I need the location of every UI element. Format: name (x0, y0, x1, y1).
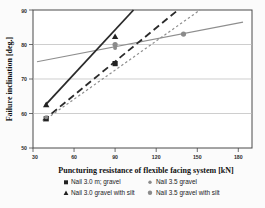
x-axis-title: Puncturing resistance of flexible facing… (58, 166, 234, 175)
legend-label-nail-3-5-gravel-with-silt: Nail 3.5 gravel with silt (156, 189, 220, 197)
x-tick-label: 180 (234, 154, 243, 160)
y-tick-label: 80 (21, 42, 27, 48)
legend-marker-small-circle (148, 181, 151, 184)
legend-label-nail-3-0-gravel-with-silt: Nail 3.0 gravel with silt (71, 189, 135, 197)
x-tick-label: 150 (193, 154, 202, 160)
legend-marker-square (64, 180, 68, 184)
y-tick-labels: 50 60 70 80 90 (21, 8, 27, 152)
data-point-square (113, 61, 118, 66)
figure-container: 50 60 70 80 90 30 60 90 120 150 180 Fail… (0, 0, 265, 208)
legend-label-nail-3-0-gravel: Nail 3.0 m; gravel (71, 178, 121, 186)
y-tick-label: 50 (21, 145, 27, 151)
legend-marker-triangle (64, 191, 69, 195)
data-point-circle (113, 42, 118, 47)
chart-svg: 50 60 70 80 90 30 60 90 120 150 180 Fail… (0, 0, 265, 208)
x-tick-label: 60 (71, 154, 77, 160)
x-tick-labels: 30 60 90 120 150 180 (32, 154, 243, 160)
y-ticks (29, 10, 33, 148)
legend-marker-circle (148, 191, 152, 195)
chart-legend: Nail 3.0 m; gravel Nail 3.5 gravel Nail … (64, 178, 220, 196)
y-axis-title: Failure inclination [deg.] (5, 36, 14, 121)
y-tick-label: 70 (21, 76, 27, 82)
x-ticks (33, 148, 238, 152)
data-point-small-circle (44, 115, 48, 119)
legend-label-nail-3-5-gravel: Nail 3.5 gravel (156, 178, 197, 186)
x-tick-label: 30 (32, 154, 38, 160)
y-tick-label: 90 (21, 8, 27, 14)
x-tick-label: 90 (112, 154, 118, 160)
x-tick-label: 120 (152, 154, 161, 160)
data-point-circle (181, 31, 186, 36)
y-tick-label: 60 (21, 111, 27, 117)
